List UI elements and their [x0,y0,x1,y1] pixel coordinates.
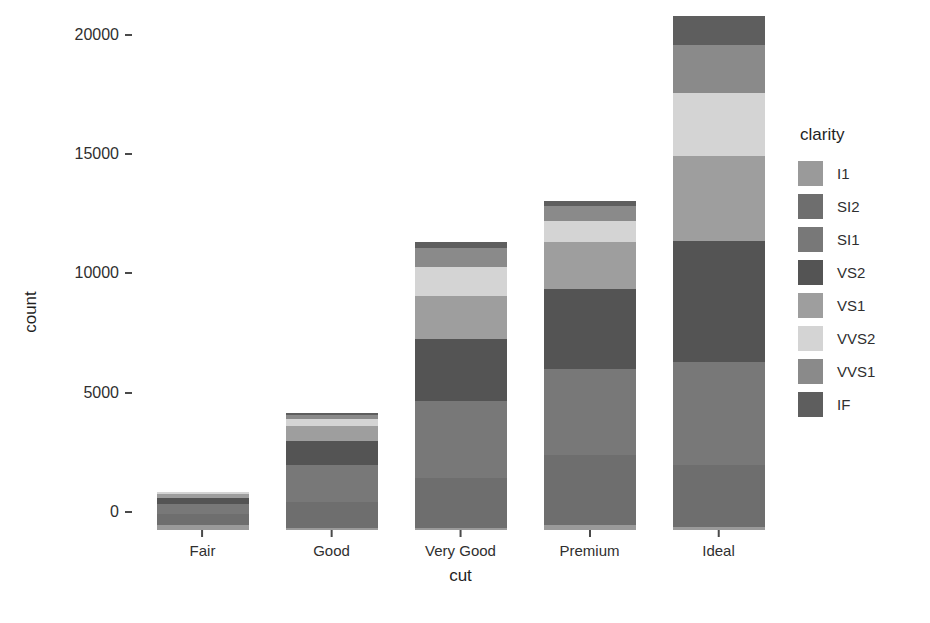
legend-swatch [798,293,823,318]
x-axis-title-label: cut [449,566,472,585]
y-axis-tick-label: 5000 [61,384,119,402]
legend-item[interactable]: I1 [798,157,923,190]
legend-swatch [798,392,823,417]
bar-segment[interactable] [415,478,507,528]
bar-segment[interactable] [673,156,765,242]
y-axis-title-label: count [21,291,41,333]
bar-segment[interactable] [415,267,507,296]
bar-segment[interactable] [415,296,507,338]
bar-segment[interactable] [415,339,507,401]
bar-segment[interactable] [544,455,636,525]
bar-segment[interactable] [286,426,378,441]
bar-series-container [138,12,783,530]
legend-swatch [798,161,823,186]
legend-item-label: VVS1 [837,363,875,380]
chart-page: count 05000100001500020000 FairGoodVery … [0,0,930,623]
plot-panel: 05000100001500020000 [138,12,783,530]
bar-segment[interactable] [544,206,636,221]
x-axis-tick-label: Ideal [702,542,735,559]
legend-item[interactable]: SI1 [798,223,923,256]
y-axis-tick-label: 0 [61,503,119,521]
x-axis-tick: Fair [190,530,216,559]
y-axis-tick: 15000 [61,145,138,163]
legend-item[interactable]: SI2 [798,190,923,223]
x-axis-ticks: FairGoodVery GoodPremiumIdeal [138,530,783,564]
legend-swatch [798,326,823,351]
legend-item[interactable]: VVS1 [798,355,923,388]
x-axis-tick-mark [718,530,720,537]
legend-item-label: VS1 [837,297,865,314]
bar-segment[interactable] [286,465,378,502]
x-axis-tick: Ideal [702,530,735,559]
legend-item-label: SI1 [837,231,860,248]
legend-item[interactable]: IF [798,388,923,421]
y-axis-tick: 20000 [61,26,138,44]
bar-segment[interactable] [673,465,765,527]
legend-swatch [798,260,823,285]
y-axis-tick-label: 10000 [61,264,119,282]
bar-segment[interactable] [544,221,636,242]
bar-stack[interactable] [157,492,249,530]
bar-segment[interactable] [286,419,378,426]
bar-segment[interactable] [673,16,765,45]
bar-segment[interactable] [157,504,249,514]
bar-stack[interactable] [286,413,378,530]
x-axis-tick-label: Fair [190,542,216,559]
bar-segment[interactable] [544,369,636,454]
legend-items: I1SI2SI1VS2VS1VVS2VVS1IF [798,157,923,421]
x-axis-title: cut [138,566,783,586]
y-axis-tick: 5000 [61,384,138,402]
bar-segment[interactable] [544,289,636,369]
bar-segment[interactable] [673,93,765,155]
bar-segment[interactable] [415,248,507,267]
y-axis-tick: 10000 [61,264,138,282]
y-axis-tick-mark [125,272,132,274]
y-axis-tick: 0 [61,503,138,521]
x-axis-tick: Good [313,530,350,559]
y-axis-title: count [18,0,44,623]
y-axis-tick-label: 15000 [61,145,119,163]
bar-segment[interactable] [544,242,636,289]
x-axis-tick-mark [330,530,332,537]
legend-swatch [798,359,823,384]
bar-segment[interactable] [415,401,507,478]
bar-segment[interactable] [286,441,378,464]
bar-stack[interactable] [415,242,507,530]
y-axis-tick-mark [125,511,132,513]
legend-item[interactable]: VS2 [798,256,923,289]
y-axis-tick-mark [125,153,132,155]
bar-segment[interactable] [673,362,765,464]
bar-segment[interactable] [673,45,765,94]
bar-segment[interactable] [673,241,765,362]
bar-stack[interactable] [544,201,636,530]
bar-stack[interactable] [673,16,765,530]
legend-item[interactable]: VS1 [798,289,923,322]
y-axis-tick-label: 20000 [61,26,119,44]
bar-segment[interactable] [157,514,249,525]
y-axis-tick-mark [125,34,132,36]
legend-swatch [798,194,823,219]
legend-item-label: SI2 [837,198,860,215]
legend: clarity I1SI2SI1VS2VS1VVS2VVS1IF [798,125,923,421]
x-axis-tick-mark [202,530,204,537]
legend-item-label: VS2 [837,264,865,281]
x-axis-tick: Premium [559,530,619,559]
legend-title: clarity [798,125,923,145]
y-axis-tick-mark [125,392,132,394]
x-axis-tick-label: Good [313,542,350,559]
legend-item-label: IF [837,396,850,413]
x-axis-tick-label: Premium [559,542,619,559]
x-axis-tick-label: Very Good [425,542,496,559]
legend-item[interactable]: VVS2 [798,322,923,355]
bar-segment[interactable] [286,502,378,528]
x-axis-tick: Very Good [425,530,496,559]
legend-item-label: I1 [837,165,850,182]
legend-item-label: VVS2 [837,330,875,347]
x-axis-tick-mark [588,530,590,537]
x-axis-tick-mark [459,530,461,537]
legend-swatch [798,227,823,252]
